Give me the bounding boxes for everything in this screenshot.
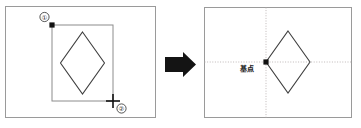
arrow-right-icon [165,52,196,77]
point-1-number: ① [42,14,48,22]
base-point-label: 基点 [239,64,254,73]
right-panel: 基点 [205,8,352,118]
point-1-dot [49,22,54,27]
base-point-dot [263,59,268,64]
instruction-diagram: ① ② 基点 [0,0,361,128]
point-1-callout: ① [40,12,49,21]
point-2-callout: ② [117,104,126,113]
transform-arrow [165,52,196,77]
point-2-number: ② [119,105,125,113]
left-panel: ① ② [6,7,156,118]
right-panel-frame [205,8,352,118]
